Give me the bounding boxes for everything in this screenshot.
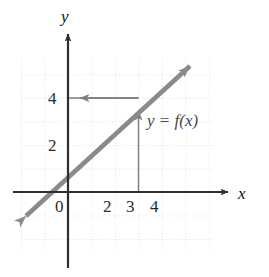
y-tick-label-4: 4 <box>48 89 57 108</box>
y-tick-label-2: 2 <box>48 136 57 155</box>
x-tick-label-4: 4 <box>150 197 159 216</box>
y-axis-label: y <box>59 7 69 26</box>
x-tick-label-2: 2 <box>103 197 112 216</box>
coordinate-plane-svg: x y 0 2 3 4 2 4 y = f(x) <box>0 0 269 277</box>
x-tick-label-3: 3 <box>126 197 135 216</box>
origin-label: 0 <box>55 197 64 216</box>
graph-figure: x y 0 2 3 4 2 4 y = f(x) <box>0 0 269 277</box>
function-label: y = f(x) <box>145 111 198 130</box>
x-axis-label: x <box>237 184 246 203</box>
